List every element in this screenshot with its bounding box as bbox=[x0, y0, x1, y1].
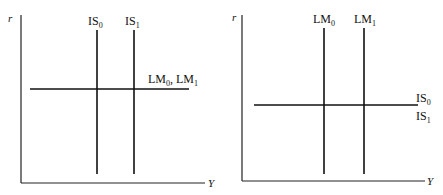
is-lm-diagrams: r Y IS0 IS1 LM0, LM1 r Y LM0 LM1 IS0 IS1 bbox=[0, 0, 443, 195]
left-is0-label: IS0 bbox=[88, 14, 103, 30]
left-panel: r Y IS0 IS1 LM0, LM1 bbox=[8, 12, 216, 189]
right-lm0-label: LM0 bbox=[313, 12, 335, 28]
left-is1-label: IS1 bbox=[125, 14, 140, 30]
right-x-axis-label: Y bbox=[427, 175, 435, 187]
right-panel: r Y LM0 LM1 IS0 IS1 bbox=[232, 11, 435, 187]
right-lm1-label: LM1 bbox=[354, 12, 376, 28]
left-y-axis-label: r bbox=[8, 12, 13, 24]
left-x-axis-label: Y bbox=[208, 177, 216, 189]
right-y-axis-label: r bbox=[232, 11, 237, 23]
right-is0-label: IS0 bbox=[416, 91, 431, 107]
left-lm-label: LM0, LM1 bbox=[148, 72, 198, 88]
right-is1-label: IS1 bbox=[416, 109, 431, 125]
